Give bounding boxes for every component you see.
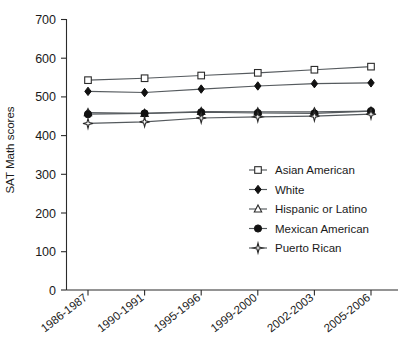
marker-open-square — [255, 167, 262, 174]
legend-label: White — [275, 184, 304, 196]
line-chart: SAT Math scores 700 600 500 400 300 200 … — [0, 0, 410, 342]
marker-open-square — [141, 75, 148, 82]
y-tick-label-200: 200 — [35, 207, 56, 221]
y-tick-label-600: 600 — [35, 52, 56, 66]
legend-label: Asian American — [275, 164, 355, 176]
legend-label: Hispanic or Latino — [275, 203, 367, 215]
y-axis-title: SAT Math scores — [4, 106, 16, 193]
y-tick-label-500: 500 — [35, 90, 56, 104]
y-tick-label-100: 100 — [35, 245, 56, 259]
y-tick-label-300: 300 — [35, 168, 56, 182]
y-tick-label-400: 400 — [35, 129, 56, 143]
marker-open-square — [255, 70, 262, 77]
marker-open-square — [368, 63, 375, 70]
legend-label: Puerto Rican — [275, 242, 341, 254]
marker-filled-circle — [254, 225, 261, 232]
y-tick-label-0: 0 — [49, 284, 56, 298]
marker-open-square — [85, 77, 92, 84]
marker-open-square — [198, 72, 205, 79]
chart-figure: SAT Math scores 700 600 500 400 300 200 … — [0, 0, 410, 342]
marker-open-square — [311, 66, 318, 73]
y-tick-label-700: 700 — [35, 13, 56, 27]
legend-label: Mexican American — [275, 223, 369, 235]
